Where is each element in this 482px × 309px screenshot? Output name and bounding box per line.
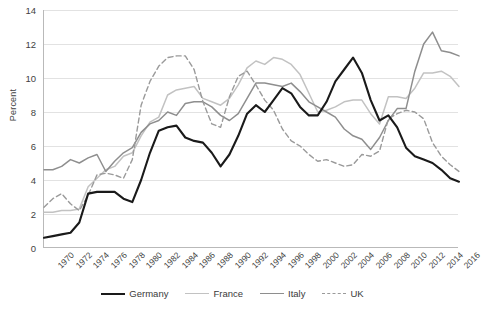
legend-item-france[interactable]: France: [185, 288, 243, 299]
x-tick-label: 2012: [426, 250, 446, 270]
x-tick-label: 2014: [444, 250, 464, 270]
x-tick-label: 2010: [409, 250, 429, 270]
y-tick-label: 0: [31, 243, 36, 254]
series-layer: [44, 10, 459, 248]
y-tick-label: 14: [25, 5, 36, 16]
x-tick-label: 1998: [303, 250, 323, 270]
legend-label: Germany: [129, 288, 168, 299]
series-line-uk: [44, 56, 459, 211]
x-tick-label: 2000: [320, 250, 340, 270]
x-tick-label: 2016: [462, 250, 482, 270]
legend-item-uk[interactable]: UK: [322, 288, 363, 299]
x-tick-label: 1972: [73, 250, 93, 270]
y-tick-label: 4: [31, 175, 36, 186]
x-tick-label: 1980: [144, 250, 164, 270]
legend-label: France: [213, 288, 243, 299]
x-tick-label: 1994: [267, 250, 287, 270]
x-tick-label: 1984: [179, 250, 199, 270]
legend-swatch-italy-icon: [260, 293, 284, 294]
y-axis-tick-labels: 14121086420: [0, 0, 43, 258]
legend-label: Italy: [288, 288, 305, 299]
x-tick-label: 1992: [250, 250, 270, 270]
x-tick-label: 2008: [391, 250, 411, 270]
x-tick-label: 1986: [197, 250, 217, 270]
series-line-germany: [44, 58, 459, 238]
y-tick-label: 12: [25, 39, 36, 50]
x-tick-label: 1982: [161, 250, 181, 270]
x-tick-label: 2002: [338, 250, 358, 270]
legend-item-italy[interactable]: Italy: [260, 288, 305, 299]
x-tick-label: 1970: [56, 250, 76, 270]
y-tick-label: 10: [25, 73, 36, 84]
legend-swatch-germany-icon: [101, 293, 125, 295]
x-tick-label: 1976: [109, 250, 129, 270]
y-tick-label: 6: [31, 141, 36, 152]
gridline: [44, 248, 458, 249]
y-tick-label: 2: [31, 209, 36, 220]
legend-swatch-uk-icon: [322, 293, 346, 294]
plot-area: [43, 10, 458, 248]
legend-item-germany[interactable]: Germany: [101, 288, 168, 299]
chart-legend: GermanyFranceItalyUK: [0, 288, 465, 299]
x-tick-label: 1996: [285, 250, 305, 270]
x-tick-label: 2006: [373, 250, 393, 270]
series-line-france: [44, 58, 459, 213]
x-tick-label: 2004: [356, 250, 376, 270]
y-tick-label: 8: [31, 107, 36, 118]
x-axis-tick-labels: 1970197219741976197819801982198419861988…: [43, 250, 458, 290]
x-tick-label: 1990: [232, 250, 252, 270]
legend-swatch-france-icon: [185, 293, 209, 294]
legend-label: UK: [350, 288, 363, 299]
x-tick-label: 1974: [91, 250, 111, 270]
series-line-italy: [44, 32, 459, 171]
x-tick-label: 1988: [214, 250, 234, 270]
x-tick-label: 1978: [126, 250, 146, 270]
